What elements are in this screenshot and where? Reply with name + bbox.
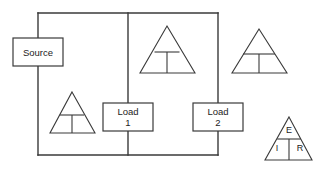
source-box-rect[interactable]: [13, 38, 63, 66]
load-1-box-rect[interactable]: [103, 103, 153, 131]
transformer-triangle-center: [140, 26, 195, 73]
ohms-law-triangle: [265, 117, 312, 160]
transformer-triangle-lower-left: [50, 92, 95, 133]
circuit-diagram-canvas: Source Load 1 Load 2 E I R: [0, 0, 317, 171]
wire-group: [38, 13, 218, 155]
diagram-vector-layer: [0, 0, 317, 171]
load-2-box-rect[interactable]: [193, 103, 243, 131]
transformer-triangle-top-right: [232, 29, 287, 73]
